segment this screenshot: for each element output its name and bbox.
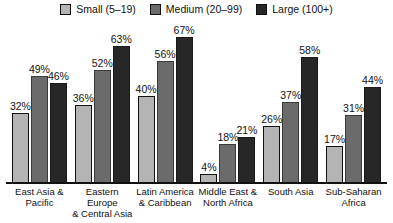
bar — [12, 113, 29, 183]
bar — [263, 126, 280, 183]
x-axis-category-labels: East Asia &PacificEastern Europe& Centra… — [8, 186, 385, 220]
bar-value-label: 36% — [73, 93, 94, 104]
bar-slot: 4% — [200, 26, 217, 183]
bar — [113, 46, 130, 183]
bar-slot: 67% — [176, 26, 193, 183]
bar-slot: 36% — [75, 26, 92, 183]
bar — [75, 105, 92, 184]
category-label-line: Eastern Europe — [71, 186, 134, 208]
bar-slot: 32% — [12, 26, 29, 183]
bar-slot: 58% — [301, 26, 318, 183]
bar — [219, 144, 236, 183]
legend-item-large: Large (100+) — [256, 4, 332, 15]
bar-group: 17%31%44% — [322, 26, 385, 183]
bar-slot: 17% — [326, 26, 343, 183]
bar-value-label: 32% — [10, 101, 31, 112]
bar — [364, 87, 381, 183]
bar-slot: 49% — [31, 26, 48, 183]
bar — [345, 115, 362, 183]
bar-value-label: 52% — [92, 58, 113, 69]
bar-value-label: 26% — [261, 114, 282, 125]
bar-value-label: 49% — [29, 64, 50, 75]
bar — [326, 146, 343, 183]
bar-value-label: 58% — [299, 45, 320, 56]
bar-slot: 31% — [345, 26, 362, 183]
x-axis-baseline — [6, 182, 387, 184]
category-label-line: North Africa — [197, 197, 260, 208]
bar-slot: 40% — [138, 26, 155, 183]
bar-slot: 37% — [282, 26, 299, 183]
legend-label-medium: Medium (20–99) — [166, 4, 242, 15]
bar-group: 4%18%21% — [197, 26, 260, 183]
legend-item-small: Small (5–19) — [60, 4, 136, 15]
bar — [50, 83, 67, 183]
bar-slot: 26% — [263, 26, 280, 183]
category-label-line: Latin America — [134, 186, 197, 197]
category-label-line: Africa — [322, 197, 385, 208]
bar-value-label: 21% — [236, 125, 257, 136]
bar-slot: 52% — [94, 26, 111, 183]
bar-value-label: 40% — [136, 84, 157, 95]
bar-value-label: 18% — [217, 132, 238, 143]
bar-group: 40%56%67% — [134, 26, 197, 183]
category-label-line: East Asia & — [8, 186, 71, 197]
bar-group: 32%49%46% — [8, 26, 71, 183]
category-label-line: & Caribbean — [134, 197, 197, 208]
bar-slot: 44% — [364, 26, 381, 183]
bar-value-label: 63% — [111, 34, 132, 45]
category-label: Eastern Europe& Central Asia — [71, 186, 134, 219]
bar — [238, 137, 255, 183]
bar-value-label: 67% — [174, 25, 195, 36]
category-label: Latin America& Caribbean — [134, 186, 197, 208]
bar-value-label: 56% — [155, 49, 176, 60]
bar — [31, 76, 48, 183]
legend-swatch-medium — [150, 4, 161, 15]
legend-swatch-small — [60, 4, 71, 15]
bar-group: 36%52%63% — [71, 26, 134, 183]
category-label: Middle East &North Africa — [197, 186, 260, 208]
category-label: East Asia &Pacific — [8, 186, 71, 208]
bar — [138, 96, 155, 183]
legend-label-large: Large (100+) — [272, 4, 332, 15]
bar-slot: 21% — [238, 26, 255, 183]
category-label-line: & Central Asia — [71, 208, 134, 219]
chart-legend: Small (5–19) Medium (20–99) Large (100+) — [0, 4, 393, 15]
bar-slot: 63% — [113, 26, 130, 183]
plot-area: 32%49%46%36%52%63%40%56%67%4%18%21%26%37… — [8, 26, 385, 183]
bar-value-label: 31% — [343, 103, 364, 114]
bar — [301, 57, 318, 183]
category-label-line: Sub-Saharan — [322, 186, 385, 197]
bar-group: 26%37%58% — [259, 26, 322, 183]
bar-value-label: 4% — [201, 162, 216, 173]
bar-value-label: 37% — [280, 90, 301, 101]
bar-value-label: 17% — [324, 134, 345, 145]
bar — [94, 70, 111, 183]
legend-item-medium: Medium (20–99) — [150, 4, 242, 15]
bar — [176, 37, 193, 183]
category-label: Sub-SaharanAfrica — [322, 186, 385, 208]
legend-label-small: Small (5–19) — [76, 4, 136, 15]
legend-swatch-large — [256, 4, 267, 15]
category-label-line: South Asia — [259, 186, 322, 197]
bar-slot: 46% — [50, 26, 67, 183]
bar-chart: Small (5–19) Medium (20–99) Large (100+)… — [0, 0, 393, 223]
bar — [157, 61, 174, 183]
bar — [282, 102, 299, 183]
category-label-line: Middle East & — [197, 186, 260, 197]
bar-value-label: 44% — [362, 75, 383, 86]
category-label: South Asia — [259, 186, 322, 197]
bar-slot: 56% — [157, 26, 174, 183]
bar-value-label: 46% — [48, 71, 69, 82]
category-label-line: Pacific — [8, 197, 71, 208]
bar-slot: 18% — [219, 26, 236, 183]
